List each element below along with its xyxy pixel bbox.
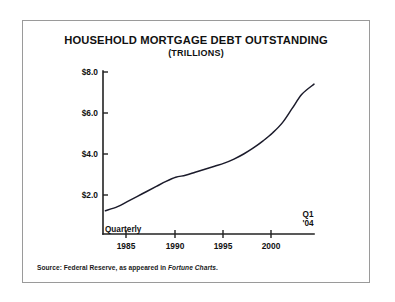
source-note: Source: Federal Reserve, as appeared in …: [37, 264, 218, 271]
x-axis-label-1985: 1985: [117, 241, 136, 251]
x-axis-label-1990: 1990: [166, 241, 185, 251]
source-prefix: Source: Federal Reserve, as appeared in: [37, 264, 168, 271]
y-axis-label-8: $8.0: [82, 67, 99, 77]
x-axis-label-1995: 1995: [214, 241, 233, 251]
chart-figure-frame: HOUSEHOLD MORTGAGE DEBT OUTSTANDING (TRI…: [22, 20, 370, 283]
frequency-annotation: Quarterly: [105, 225, 142, 234]
line-chart-plot: $8.0 $6.0 $4.0 $2.0 1985 1990 1995 2000 …: [23, 21, 371, 284]
x-axis-label-2000: 2000: [262, 241, 281, 251]
end-period-annotation-line2: '04: [302, 219, 314, 228]
y-axis-label-2: $2.0: [82, 190, 99, 200]
data-series-line: [105, 84, 314, 211]
y-axis-label-6: $6.0: [82, 108, 99, 118]
source-suffix: .: [216, 264, 218, 271]
end-period-annotation-line1: Q1: [303, 210, 314, 219]
source-publication: Fortune Charts: [168, 264, 216, 271]
y-axis-label-4: $4.0: [82, 149, 99, 159]
